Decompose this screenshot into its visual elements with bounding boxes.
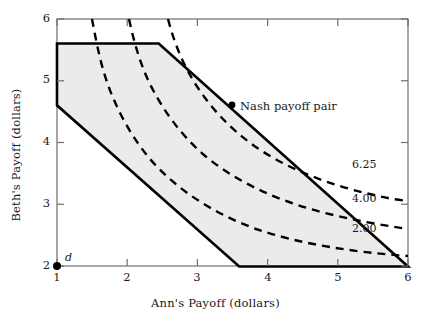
ytick-label-5: 5 [26, 72, 50, 86]
curve-label-4-00: 4.00 [352, 192, 377, 205]
x-axis-title: Ann's Payoff (dollars) [0, 296, 431, 310]
xtick-label-1: 1 [45, 270, 69, 284]
nash-bargaining-chart: 6 5 4 3 2 1 2 3 4 5 6 Ann's Payoff (doll… [0, 0, 431, 321]
ytick-label-4: 4 [26, 134, 50, 148]
nash-payoff-pair-label: Nash payoff pair [240, 99, 337, 113]
disagreement-point-group [53, 262, 61, 270]
xtick-label-2: 2 [115, 270, 139, 284]
ytick-label-6: 6 [26, 11, 50, 25]
nash-point-marker [229, 102, 236, 109]
xtick-label-5: 5 [326, 270, 350, 284]
y-axis-title: Beth's Payoff (dollars) [9, 65, 23, 245]
xtick-label-6: 6 [396, 270, 420, 284]
xtick-label-4: 4 [256, 270, 280, 284]
xtick-label-3: 3 [185, 270, 209, 284]
disagreement-point-label: d [65, 251, 72, 264]
curve-label-6-25: 6.25 [352, 158, 377, 171]
curve-label-2-00: 2.00 [352, 222, 377, 235]
disagreement-point-marker [53, 262, 61, 270]
nash-point-group [229, 102, 236, 109]
ytick-label-3: 3 [26, 196, 50, 210]
